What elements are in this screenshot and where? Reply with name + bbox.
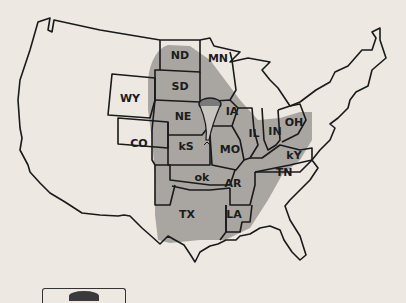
state-label-mn: MN bbox=[208, 52, 228, 65]
state-label-co: CO bbox=[130, 137, 147, 150]
state-label-sd: SD bbox=[171, 80, 188, 93]
state-label-la: LA bbox=[226, 208, 242, 221]
state-label-nd: ND bbox=[171, 49, 189, 62]
state-label-wy: WY bbox=[120, 92, 141, 105]
state-label-ky: kY bbox=[286, 149, 302, 162]
state-label-oh: OH bbox=[285, 116, 304, 129]
state-label-ia: IA bbox=[226, 105, 239, 118]
state-label-ne: NE bbox=[175, 110, 192, 123]
state-label-il: IL bbox=[248, 127, 259, 140]
state-label-in: IN bbox=[268, 125, 281, 138]
state-label-tx: TX bbox=[179, 208, 196, 221]
state-label-ok: ok bbox=[195, 171, 211, 184]
state-label-ar: AR bbox=[225, 177, 243, 190]
legend-swatch-icon bbox=[69, 291, 99, 301]
state-label-ks: kS bbox=[178, 140, 193, 153]
state-label-mo: MO bbox=[220, 143, 240, 156]
state-label-tn: TN bbox=[276, 166, 293, 179]
legend-box bbox=[42, 288, 126, 303]
